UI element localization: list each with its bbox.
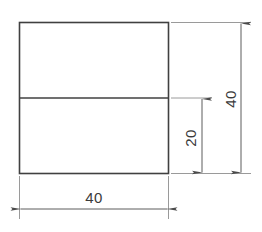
technical-drawing-canvas: 40 20 40 <box>0 0 262 232</box>
dimension-label-overall-height: 40 <box>222 90 239 108</box>
dimension-overall-width: 40 <box>21 189 168 209</box>
dimension-lower-section-height: 20 <box>182 99 202 173</box>
extension-lines <box>20 23 252 220</box>
engineering-drawing-svg: 40 20 40 <box>0 0 262 232</box>
dimension-overall-height: 40 <box>222 24 241 173</box>
shape-outline <box>20 23 169 174</box>
dimension-label-lower-section-height: 20 <box>182 129 199 147</box>
dimension-label-overall-width: 40 <box>85 189 103 206</box>
